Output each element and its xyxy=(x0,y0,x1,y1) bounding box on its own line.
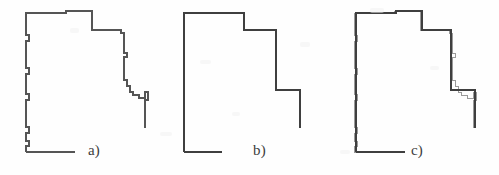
panel-b-label: b) xyxy=(253,142,266,159)
overlay_simplified_outline xyxy=(356,11,475,152)
panel-a: a) xyxy=(0,0,166,175)
simplified_outline xyxy=(184,13,300,152)
panel-b: b) xyxy=(166,0,332,175)
panel-a-label: a) xyxy=(88,142,100,159)
panel-c: c) xyxy=(332,0,498,175)
raw_staircase_outline xyxy=(26,11,148,152)
panel-b-drawing xyxy=(166,0,332,175)
overlay_raw_outline xyxy=(354,11,476,152)
figure-root: a) b) c) xyxy=(0,0,499,175)
panel-c-label: c) xyxy=(411,142,423,159)
panel-a-drawing xyxy=(0,0,166,175)
